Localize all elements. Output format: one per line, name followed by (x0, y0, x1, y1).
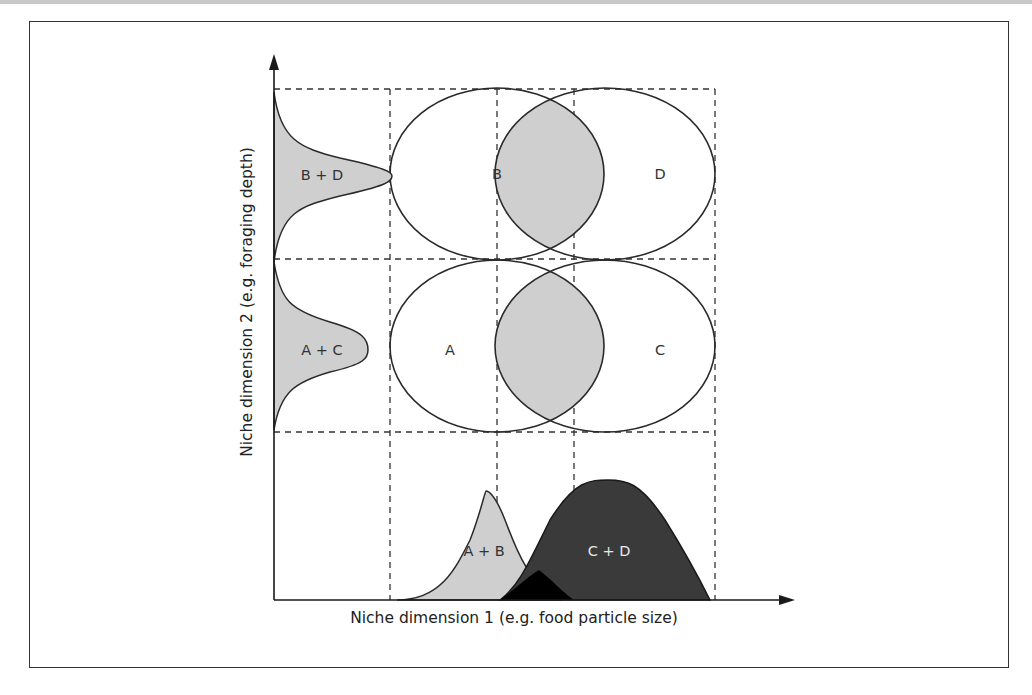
x-axis-arrow-icon (779, 595, 795, 605)
y-axis-label: Niche dimension 2 (e.g. foraging depth) (238, 132, 256, 472)
label-b-plus-d: B + D (301, 167, 343, 183)
label-niche-b: B (492, 166, 502, 182)
label-niche-a: A (445, 342, 455, 358)
label-a-plus-c: A + C (301, 342, 342, 358)
y-axis-arrow-icon (269, 54, 279, 70)
label-a-plus-b: A + B (463, 543, 504, 559)
y-marginal-distributions (274, 92, 392, 430)
label-niche-d: D (654, 166, 665, 182)
x-axis-label: Niche dimension 1 (e.g. food particle si… (274, 609, 754, 627)
niche-diagram (0, 0, 1032, 695)
x-marginal-distributions (397, 480, 710, 600)
label-niche-c: C (655, 342, 665, 358)
label-c-plus-d: C + D (588, 543, 631, 559)
